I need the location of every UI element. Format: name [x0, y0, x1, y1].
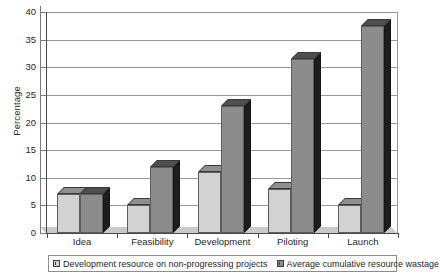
bar-development-series-a	[198, 172, 221, 233]
gridline	[47, 40, 398, 41]
y-axis-tick-label: 0	[14, 228, 36, 238]
bar-idea-series-b	[80, 194, 103, 233]
plot-right-border	[397, 12, 398, 234]
bar-front-face	[150, 167, 173, 233]
bar-launch-series-a	[338, 205, 361, 233]
x-axis-tick-label-development: Development	[187, 236, 257, 247]
y-axis-line	[46, 12, 47, 234]
bar-front-face	[198, 172, 221, 233]
y-axis-outer-line	[40, 6, 41, 234]
bar-development-series-b	[221, 106, 244, 233]
chart-legend: Development resource on non-progressing …	[48, 255, 397, 272]
bar-front-face	[338, 205, 361, 233]
bar-piloting-series-b	[291, 59, 314, 233]
y-axis-tick-label: 20	[14, 118, 36, 128]
bar-piloting-series-a	[268, 189, 291, 233]
y-axis-tick-label: 10	[14, 173, 36, 183]
x-axis-tick-label-launch: Launch	[328, 236, 398, 247]
y-axis-tick-label: 15	[14, 145, 36, 155]
bar-front-face	[221, 106, 244, 233]
bar-feasibility-series-b	[150, 167, 173, 233]
y-axis-title: Percentage	[11, 66, 25, 156]
legend-label-series-b: Average cumulative resource wastage	[287, 259, 439, 269]
bar-side-face	[384, 19, 391, 233]
legend-label-series-a: Development resource on non-progressing …	[63, 259, 268, 269]
bar-front-face	[80, 194, 103, 233]
bar-side-face	[173, 160, 180, 233]
x-axis-tick-label-piloting: Piloting	[258, 236, 328, 247]
y-axis-tick-label: 35	[14, 35, 36, 45]
y-axis-tick-label: 5	[14, 200, 36, 210]
bar-front-face	[291, 59, 314, 233]
gridline	[47, 95, 398, 96]
bar-front-face	[127, 205, 150, 233]
plot-area	[47, 12, 398, 233]
x-axis-line	[46, 233, 398, 234]
y-axis-tick-label: 40	[14, 7, 36, 17]
legend-item-series-a: Development resource on non-progressing …	[53, 259, 268, 269]
legend-swatch-series-b-icon	[277, 260, 284, 267]
legend-swatch-series-a-icon	[53, 260, 60, 267]
bar-side-face	[314, 52, 321, 233]
bar-front-face	[361, 26, 384, 233]
bar-side-face	[244, 99, 251, 233]
bar-front-face	[57, 194, 80, 233]
gridline	[47, 67, 398, 68]
plot-top-border	[47, 12, 398, 13]
bar-side-face	[103, 187, 110, 233]
y-axis-tick-label: 25	[14, 90, 36, 100]
x-axis-tick-label-feasibility: Feasibility	[117, 236, 187, 247]
x-axis-tick-mark	[398, 233, 399, 238]
bar-front-face	[268, 189, 291, 233]
legend-item-series-b: Average cumulative resource wastage	[277, 259, 439, 269]
bar-launch-series-b	[361, 26, 384, 233]
bar-idea-series-a	[57, 194, 80, 233]
x-axis-tick-label-idea: Idea	[47, 236, 117, 247]
bar-feasibility-series-a	[127, 205, 150, 233]
y-axis-tick-label: 30	[14, 62, 36, 72]
